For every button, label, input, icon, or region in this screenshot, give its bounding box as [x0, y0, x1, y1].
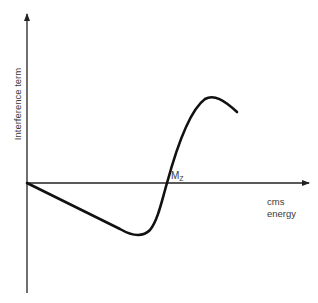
x-axis-label-line2: energy — [267, 208, 296, 220]
x-axis-label: cms energy — [267, 196, 296, 220]
interference-chart — [0, 0, 318, 303]
x-axis-label-line1: cms — [267, 196, 296, 208]
interference-curve — [27, 97, 237, 235]
y-axis-label: Interference term — [12, 68, 23, 140]
mz-annotation: MZ — [171, 170, 184, 184]
mz-subscript: Z — [179, 175, 183, 182]
